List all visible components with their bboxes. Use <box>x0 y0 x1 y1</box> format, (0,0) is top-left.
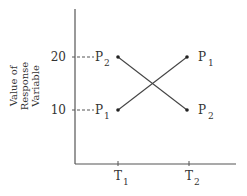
svg-text:2: 2 <box>208 111 214 121</box>
right-label-p1: P 1 <box>198 50 214 68</box>
interaction-plot: 20 10 Value of Response Variable P 2 P 1… <box>0 0 247 196</box>
right-label-p2: P 2 <box>198 103 214 121</box>
left-label-p2: P 2 <box>95 50 110 68</box>
x-tick-label-t2: T 2 <box>185 169 200 187</box>
point-p2-t1 <box>116 55 120 59</box>
svg-text:T: T <box>114 169 122 183</box>
y-axis-label: Value of Response Variable <box>8 62 41 111</box>
svg-text:P: P <box>198 103 206 117</box>
point-p1-t2 <box>185 55 189 59</box>
svg-text:T: T <box>185 169 193 183</box>
svg-text:1: 1 <box>123 177 129 187</box>
svg-text:Variable: Variable <box>30 65 41 108</box>
svg-text:2: 2 <box>194 177 200 187</box>
svg-text:P: P <box>95 103 103 117</box>
y-tick-label-10: 10 <box>51 103 66 117</box>
y-tick-label-20: 20 <box>51 50 66 64</box>
svg-text:Value of: Value of <box>8 64 19 107</box>
x-tick-label-t1: T 1 <box>114 169 129 187</box>
svg-text:Response: Response <box>19 62 30 111</box>
svg-text:P: P <box>95 50 103 64</box>
svg-text:P: P <box>198 50 206 64</box>
point-p1-t1 <box>116 108 120 112</box>
svg-text:2: 2 <box>104 58 110 68</box>
point-p2-t2 <box>185 108 189 112</box>
left-label-p1: P 1 <box>95 103 110 121</box>
svg-text:1: 1 <box>208 58 214 68</box>
svg-text:1: 1 <box>104 111 110 121</box>
